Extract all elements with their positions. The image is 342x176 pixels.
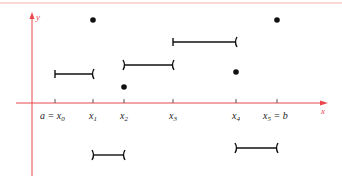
tick-label-x1: x1 [88,110,97,123]
point-x5 [274,17,280,23]
tick-label-x5: x5 = b [262,110,288,123]
segment-x1-x2 [92,150,125,160]
points [90,17,280,90]
point-x1 [90,17,96,23]
tick-label-x2: x2 [119,110,128,123]
step-function-diagram: y x a = x0 x1 x2 x3 x4 x5 = b [0,0,342,176]
segment-x2-x3 [123,60,174,70]
segment-x0-x1 [55,69,94,79]
tick-labels: a = x0 x1 x2 x3 x4 x5 = b [40,110,288,123]
y-axis: y [30,12,41,176]
segment-x4-x5 [235,143,278,153]
y-axis-label: y [35,12,40,22]
point-x2 [121,84,127,90]
x-axis-arrow-icon [320,101,328,106]
y-axis-arrow-icon [30,12,35,19]
point-x4 [233,69,239,75]
tick-label-x3: x3 [168,110,177,123]
tick-label-x0: a = x0 [40,110,65,123]
tick-label-x4: x4 [231,110,240,123]
x-axis-label: x [320,106,325,116]
segment-x3-x4 [173,37,237,47]
segments [55,37,278,160]
x-ticks [55,99,277,103]
